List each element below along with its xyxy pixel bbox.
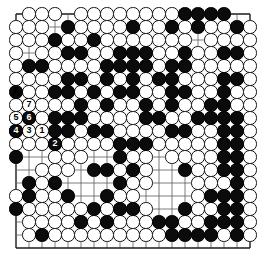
white-stone	[74, 137, 87, 150]
black-stone	[191, 7, 204, 20]
white-stone	[87, 59, 100, 72]
white-stone	[165, 150, 178, 163]
white-stone	[126, 228, 139, 241]
white-stone	[243, 111, 256, 124]
black-stone	[217, 111, 230, 124]
move-stone-6: 6	[22, 111, 35, 124]
white-stone	[22, 228, 35, 241]
black-stone	[230, 163, 243, 176]
white-stone	[191, 189, 204, 202]
white-stone	[243, 202, 256, 215]
white-stone	[9, 20, 22, 33]
black-stone	[230, 46, 243, 59]
black-stone	[217, 137, 230, 150]
black-stone	[230, 137, 243, 150]
white-stone	[152, 124, 165, 137]
white-stone	[217, 176, 230, 189]
white-stone	[61, 228, 74, 241]
black-stone	[61, 46, 74, 59]
white-stone	[243, 189, 256, 202]
white-stone	[100, 85, 113, 98]
black-stone	[48, 85, 61, 98]
white-stone	[61, 98, 74, 111]
white-stone	[87, 72, 100, 85]
black-stone	[126, 137, 139, 150]
white-stone	[74, 124, 87, 137]
white-stone	[35, 85, 48, 98]
white-stone	[243, 72, 256, 85]
white-stone	[100, 228, 113, 241]
white-stone	[243, 59, 256, 72]
white-stone	[87, 111, 100, 124]
black-stone	[74, 46, 87, 59]
white-stone	[178, 137, 191, 150]
white-stone	[243, 150, 256, 163]
black-stone	[217, 85, 230, 98]
go-diagram: 1234567 A	[0, 0, 268, 260]
white-stone	[35, 176, 48, 189]
black-stone	[204, 189, 217, 202]
black-stone	[61, 20, 74, 33]
white-stone	[35, 189, 48, 202]
white-stone	[22, 20, 35, 33]
white-stone	[191, 137, 204, 150]
white-stone	[61, 33, 74, 46]
white-stone	[204, 163, 217, 176]
black-stone	[126, 72, 139, 85]
white-stone	[178, 33, 191, 46]
black-stone	[230, 228, 243, 241]
black-stone	[230, 20, 243, 33]
black-stone	[74, 72, 87, 85]
white-stone	[204, 72, 217, 85]
white-stone	[230, 98, 243, 111]
white-stone	[191, 163, 204, 176]
black-stone	[217, 202, 230, 215]
black-stone	[126, 85, 139, 98]
white-stone	[139, 215, 152, 228]
white-stone	[48, 202, 61, 215]
white-stone	[191, 72, 204, 85]
white-stone	[243, 33, 256, 46]
white-stone	[204, 46, 217, 59]
white-stone	[204, 137, 217, 150]
white-stone	[139, 163, 152, 176]
white-stone	[178, 215, 191, 228]
white-stone	[35, 111, 48, 124]
white-stone	[35, 202, 48, 215]
white-stone	[204, 176, 217, 189]
white-stone	[152, 20, 165, 33]
white-stone	[35, 46, 48, 59]
black-stone	[126, 20, 139, 33]
white-stone	[191, 59, 204, 72]
white-stone	[74, 228, 87, 241]
white-stone	[243, 163, 256, 176]
black-stone	[9, 202, 22, 215]
move-number-label: 1	[36, 125, 47, 136]
black-stone	[139, 98, 152, 111]
black-stone	[126, 202, 139, 215]
white-stone	[48, 228, 61, 241]
white-stone	[9, 33, 22, 46]
white-stone	[113, 189, 126, 202]
white-stone	[126, 7, 139, 20]
white-stone	[126, 176, 139, 189]
black-stone	[165, 59, 178, 72]
white-stone	[48, 98, 61, 111]
white-stone	[178, 111, 191, 124]
black-stone	[126, 163, 139, 176]
white-stone	[74, 20, 87, 33]
white-stone	[243, 20, 256, 33]
white-stone	[100, 20, 113, 33]
white-stone	[22, 72, 35, 85]
black-stone	[113, 85, 126, 98]
white-stone	[204, 85, 217, 98]
white-stone	[230, 59, 243, 72]
black-stone	[178, 46, 191, 59]
white-stone	[35, 215, 48, 228]
white-stone	[204, 59, 217, 72]
black-stone	[35, 59, 48, 72]
black-stone	[217, 163, 230, 176]
black-stone	[165, 124, 178, 137]
white-stone	[139, 124, 152, 137]
white-stone	[152, 33, 165, 46]
